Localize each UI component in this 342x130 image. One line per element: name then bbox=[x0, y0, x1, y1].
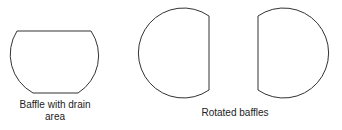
rotated-baffle-right-shape bbox=[258, 8, 329, 98]
baffle-drain-label: Baffle with drain area bbox=[5, 99, 105, 123]
rotated-baffle-left-shape bbox=[138, 8, 209, 98]
baffle-with-drain-shape bbox=[10, 31, 98, 93]
baffle-drain-label-line2: area bbox=[5, 111, 105, 123]
rotated-baffles-label: Rotated baffles bbox=[185, 107, 285, 119]
baffle-drain-label-line1: Baffle with drain bbox=[5, 99, 105, 111]
